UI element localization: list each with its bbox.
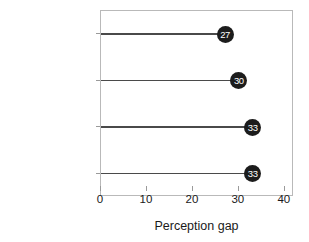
lollipop-stem — [101, 33, 225, 35]
x-axis-tick-mark — [100, 186, 101, 191]
data-point-marker[interactable]: 33 — [244, 119, 261, 136]
data-point-marker[interactable]: 30 — [230, 72, 247, 89]
x-axis-tick-label: 0 — [97, 193, 103, 205]
x-axis-tick-label: 30 — [231, 193, 244, 205]
data-point-marker[interactable]: 33 — [244, 165, 261, 182]
data-point-marker[interactable]: 27 — [217, 26, 234, 43]
x-axis-tick-mark — [238, 186, 239, 191]
y-axis-tick-mark — [96, 80, 100, 81]
y-axis-tick-mark — [96, 173, 100, 174]
x-axis-tick-label: 20 — [185, 193, 198, 205]
x-axis-tick-label: 10 — [140, 193, 153, 205]
x-axis-label: Perception gap — [100, 219, 293, 233]
x-axis-tick-mark — [146, 186, 147, 191]
x-axis-tick-mark — [192, 186, 193, 191]
y-axis-tick-mark — [96, 33, 100, 34]
plot-frame: 27303333 — [100, 10, 293, 196]
x-axis-tick-mark — [284, 186, 285, 191]
plot-area: 27303333 — [101, 11, 292, 195]
lollipop-stem — [101, 80, 239, 82]
lollipop-stem — [101, 173, 253, 175]
x-axis-tick-label: 40 — [277, 193, 290, 205]
chart-figure: 27303333 Did not voteSomeone elseTrumpBi… — [0, 0, 309, 242]
y-axis-tick-mark — [96, 126, 100, 127]
lollipop-stem — [101, 126, 253, 128]
